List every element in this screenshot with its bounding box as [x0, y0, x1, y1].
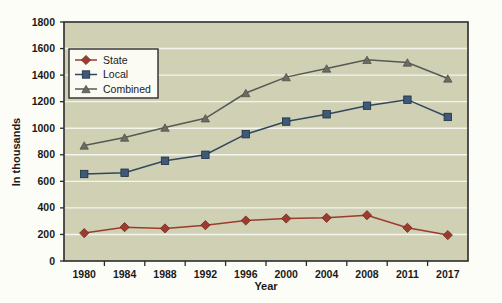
data-point-local-1992 — [202, 151, 209, 158]
data-point-local-2008 — [363, 102, 370, 109]
x-tick-label-1984: 1984 — [113, 268, 137, 280]
x-tick-label-1980: 1980 — [73, 268, 97, 280]
line-chart-figure: 020040060080010001200140016001800 198019… — [0, 0, 502, 303]
data-point-local-2004 — [323, 111, 330, 118]
y-tick-label-800: 800 — [37, 148, 55, 160]
y-tick-label-600: 600 — [37, 175, 55, 187]
x-axis-title: Year — [254, 280, 278, 292]
y-tick-label-1000: 1000 — [32, 122, 56, 134]
x-tick-label-2017: 2017 — [436, 268, 460, 280]
x-tick-label-2011: 2011 — [396, 268, 419, 280]
y-tick-label-0: 0 — [49, 255, 55, 267]
x-tick-label-2008: 2008 — [355, 268, 379, 280]
x-tick-label-1992: 1992 — [194, 268, 218, 280]
y-tick-label-1200: 1200 — [32, 95, 56, 107]
data-point-local-2000 — [283, 118, 290, 125]
y-tick-label-1600: 1600 — [32, 42, 56, 54]
data-point-local-1984 — [121, 169, 128, 176]
y-tick-label-1800: 1800 — [32, 16, 56, 28]
data-point-local-1988 — [161, 157, 168, 164]
data-point-local-1996 — [242, 130, 249, 137]
legend-label-local: Local — [103, 68, 128, 80]
y-tick-label-400: 400 — [37, 201, 55, 213]
x-tick-label-2004: 2004 — [315, 268, 339, 280]
y-axis-title: In thousands — [10, 118, 22, 186]
y-tick-label-200: 200 — [37, 228, 55, 240]
legend-marker-local — [82, 71, 89, 78]
data-point-local-2011 — [404, 96, 411, 103]
x-tick-label-1988: 1988 — [153, 268, 177, 280]
data-point-local-2017 — [444, 113, 451, 120]
legend-label-combined: Combined — [103, 83, 151, 95]
data-point-local-1980 — [81, 170, 88, 177]
x-tick-label-1996: 1996 — [234, 268, 258, 280]
legend-label-state: State — [103, 54, 128, 66]
y-tick-label-1400: 1400 — [32, 69, 56, 81]
chart-legend: StateLocalCombined — [69, 49, 158, 98]
x-tick-label-2000: 2000 — [275, 268, 299, 280]
